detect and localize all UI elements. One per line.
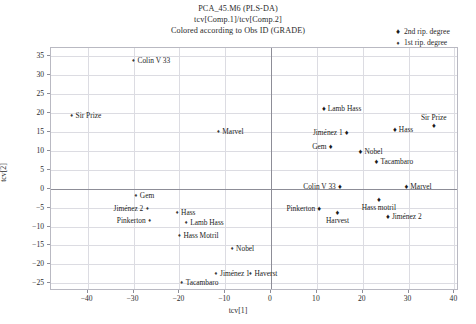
legend: ♦2nd rip. degree♦1st rip. degree: [393, 26, 476, 48]
data-point-label: Colin V 33: [138, 57, 171, 65]
legend-item-label: 1st rip. degree: [403, 38, 447, 47]
y-axis-tick-label: 5: [20, 164, 44, 173]
data-point[interactable]: ♦: [404, 183, 408, 191]
data-point-label: Sir Prize: [421, 114, 447, 122]
data-point-label: Harvest: [326, 217, 349, 225]
data-point[interactable]: ♦: [217, 129, 220, 135]
y-axis-tick-label: 30: [20, 69, 44, 78]
y-axis-tick-label: 25: [20, 88, 44, 97]
data-point[interactable]: ♦: [345, 130, 349, 138]
data-point[interactable]: ♦: [185, 220, 188, 226]
y-axis-tick: [47, 207, 50, 208]
data-point[interactable]: ♦: [393, 126, 397, 134]
data-point-label: Pinkerton: [286, 205, 315, 213]
x-axis-tick: [224, 290, 225, 293]
x-axis-tick-label: 10: [301, 294, 331, 303]
data-point[interactable]: ♦: [322, 105, 326, 113]
data-point[interactable]: ♦: [375, 158, 379, 166]
gridline-horizontal: [51, 75, 457, 76]
data-point-label: Pinkerton: [117, 217, 146, 225]
x-axis-tick-label: −40: [72, 294, 102, 303]
gridline-vertical: [179, 48, 180, 289]
y-axis-tick: [47, 169, 50, 170]
gridline-vertical: [134, 48, 135, 289]
data-point-label: Lamb Hass: [190, 219, 223, 227]
gridline-horizontal: [51, 283, 457, 284]
gridline-vertical: [409, 48, 410, 289]
y-axis-tick: [47, 55, 50, 56]
figure-title-main: PCA_45.M6 (PLS-DA): [0, 3, 476, 14]
gridline-vertical: [317, 48, 318, 289]
figure-title-subtitle: tcv[Comp.1]/tcv[Comp.2]: [0, 14, 476, 25]
gridline-horizontal: [51, 264, 457, 265]
data-point-label: Haverst: [254, 270, 277, 278]
data-point-label: Nobel: [236, 245, 254, 253]
y-axis-title: tcv[2]: [0, 163, 8, 182]
y-axis-tick-label: 20: [20, 107, 44, 116]
x-axis-tick: [178, 290, 179, 293]
y-axis-tick: [47, 93, 50, 94]
data-point[interactable]: ♦: [146, 207, 149, 213]
x-axis-tick-label: 30: [393, 294, 423, 303]
gridline-horizontal: [51, 151, 457, 152]
data-point[interactable]: ♦: [329, 143, 333, 151]
legend-item-label: 2nd rip. degree: [403, 27, 450, 36]
data-point[interactable]: ♦: [317, 206, 321, 214]
y-axis-tick: [47, 282, 50, 283]
data-point-label: Nobel: [364, 148, 382, 156]
y-axis-tick: [47, 263, 50, 264]
y-axis-tick: [47, 131, 50, 132]
gridline-vertical: [88, 48, 89, 289]
data-point[interactable]: ♦: [148, 218, 151, 224]
data-point-label: Jiménez 1: [313, 129, 343, 137]
y-axis-tick: [47, 244, 50, 245]
y-axis-tick: [47, 226, 50, 227]
x-axis-tick: [316, 290, 317, 293]
data-point[interactable]: ♦: [358, 149, 362, 157]
gridline-horizontal: [51, 94, 457, 95]
y-axis-tick-label: −15: [20, 240, 44, 249]
data-point[interactable]: ♦: [231, 246, 234, 252]
data-point[interactable]: ♦: [386, 213, 390, 221]
data-point-label: Hass Motril: [183, 232, 218, 240]
data-point[interactable]: ♦: [132, 59, 135, 65]
gridline-vertical: [225, 48, 226, 289]
y-axis-tick-label: −5: [20, 202, 44, 211]
data-point-label: Sir Prize: [76, 112, 102, 120]
data-point-label: Jiménez 2: [392, 213, 422, 221]
gridline-horizontal: [51, 113, 457, 114]
x-axis-tick-label: 20: [347, 294, 377, 303]
y-axis-tick: [47, 188, 50, 189]
data-point[interactable]: ♦: [134, 193, 137, 199]
y-axis-tick: [47, 74, 50, 75]
y-axis-tick-label: 0: [20, 183, 44, 192]
data-point[interactable]: ♦: [70, 114, 73, 120]
x-axis-tick: [87, 290, 88, 293]
data-point-label: Gem: [312, 143, 326, 151]
zero-axis-horizontal: [51, 189, 457, 190]
y-axis-tick-label: −20: [20, 259, 44, 268]
data-point-label: Marvel: [222, 128, 243, 136]
x-axis-tick: [453, 290, 454, 293]
legend-item-deg2[interactable]: ♦2nd rip. degree: [393, 26, 476, 37]
x-axis-tick-label: −30: [118, 294, 148, 303]
data-point[interactable]: ♦: [215, 271, 218, 277]
data-point[interactable]: ♦: [176, 210, 179, 216]
scatter-plot-figure: PCA_45.M6 (PLS-DA) tcv[Comp.1]/tcv[Comp.…: [0, 0, 476, 324]
x-axis-tick: [408, 290, 409, 293]
data-point[interactable]: ♦: [249, 271, 252, 277]
gridline-horizontal: [51, 56, 457, 57]
y-axis-tick-label: 15: [20, 126, 44, 135]
data-point[interactable]: ♦: [180, 281, 183, 287]
x-axis-tick-label: −10: [209, 294, 239, 303]
data-point[interactable]: ♦: [338, 183, 342, 191]
x-axis-tick: [133, 290, 134, 293]
data-point[interactable]: ♦: [178, 233, 181, 239]
y-axis-tick: [47, 150, 50, 151]
diamond-marker-icon: ♦: [393, 27, 403, 37]
data-point[interactable]: ♦: [432, 122, 436, 130]
data-point-label: Lamb Hass: [328, 105, 361, 113]
y-axis-tick-label: −10: [20, 221, 44, 230]
data-point-label: Tacambaro: [186, 279, 219, 287]
x-axis-title: tcv[1]: [0, 306, 476, 315]
